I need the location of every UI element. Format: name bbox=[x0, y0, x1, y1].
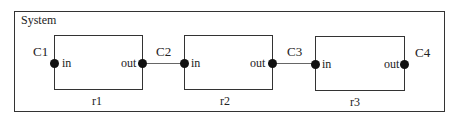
r2-out-port-icon[interactable] bbox=[268, 59, 277, 68]
r2-out-port-label: out bbox=[250, 57, 265, 69]
r1-in-port-icon[interactable] bbox=[50, 59, 59, 68]
system-frame-title: System bbox=[21, 14, 56, 26]
r3-out-port-icon[interactable] bbox=[400, 60, 409, 69]
component-r3-label: r3 bbox=[350, 96, 360, 108]
connector-c1-label: C1 bbox=[33, 45, 48, 58]
connector-c3-wire[interactable] bbox=[273, 63, 315, 64]
component-r1-label: r1 bbox=[92, 95, 102, 107]
r1-out-port-icon[interactable] bbox=[138, 59, 147, 68]
r3-in-port-label: in bbox=[322, 58, 331, 70]
r3-in-port-icon[interactable] bbox=[311, 60, 320, 69]
connector-c4-label: C4 bbox=[415, 46, 430, 59]
connector-c3-label: C3 bbox=[287, 45, 302, 58]
system-diagram: System r1 in out r2 in out r3 in out C1 … bbox=[0, 0, 459, 121]
r2-in-port-label: in bbox=[191, 57, 200, 69]
r1-in-port-label: in bbox=[62, 57, 71, 69]
r2-in-port-icon[interactable] bbox=[180, 59, 189, 68]
r1-out-port-label: out bbox=[121, 57, 136, 69]
connector-c2-label: C2 bbox=[156, 45, 171, 58]
connector-c2-wire[interactable] bbox=[143, 63, 184, 64]
r3-out-port-label: out bbox=[384, 58, 399, 70]
component-r2-label: r2 bbox=[220, 95, 230, 107]
